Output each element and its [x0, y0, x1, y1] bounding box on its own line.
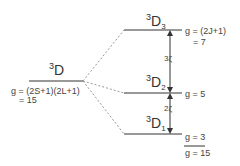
gap-3zeta-label: 3ζ — [164, 54, 172, 63]
j-value: 3 — [161, 22, 165, 31]
gap-2zeta-label: 2ζ — [164, 104, 172, 113]
connector-3D2 — [83, 81, 124, 93]
multiplicity: 3 — [49, 61, 54, 71]
j-value: 1 — [161, 124, 165, 133]
term-letter: D — [151, 74, 161, 90]
level-3D3-label: 3D3 — [146, 13, 166, 29]
parent-g-value: = 15 — [19, 95, 37, 105]
total-g: g = 15 — [185, 148, 210, 158]
term-letter: D — [54, 62, 64, 78]
level-3D1-label: 3D1 — [146, 115, 166, 131]
parent-term-label: 3D — [49, 62, 64, 78]
connector-3D1 — [83, 81, 124, 134]
level-3D3-g-value: = 7 — [193, 37, 206, 47]
level-3D2-g: g = 5 — [185, 89, 205, 99]
multiplicity: 3 — [146, 73, 151, 83]
j-value: 2 — [161, 83, 165, 92]
level-3D1-g: g = 3 — [185, 132, 205, 142]
multiplicity: 3 — [146, 12, 151, 22]
term-letter: D — [151, 13, 161, 29]
level-3D3-g-formula: g = (2J+1) — [185, 26, 226, 36]
connector-3D3 — [83, 30, 124, 81]
term-letter: D — [151, 115, 161, 131]
level-3D2-label: 3D2 — [146, 74, 166, 90]
multiplicity: 3 — [146, 114, 151, 124]
